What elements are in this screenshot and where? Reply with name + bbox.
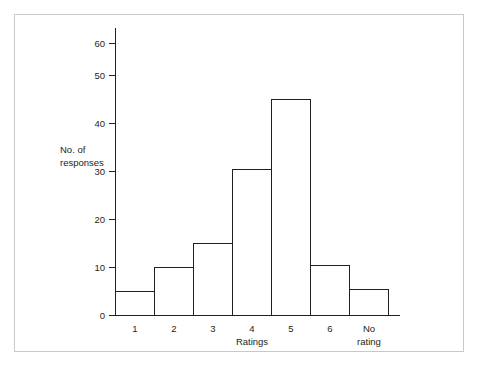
bar-rating-4 <box>233 170 272 316</box>
x-tick-marks <box>116 309 389 316</box>
bar-rating-6 <box>311 266 350 316</box>
x-tick-label-1: 1 <box>132 323 137 334</box>
bar-rating-2 <box>155 268 194 316</box>
y-tick-label-50: 50 <box>94 70 105 81</box>
chart-svg: 0 10 20 30 40 50 60 No. of responses <box>0 0 480 368</box>
x-tick-label-5: 5 <box>288 323 293 334</box>
bar-rating-1 <box>116 292 155 316</box>
bar-group <box>116 100 389 316</box>
x-tick-label-no-rating-line1: No <box>363 323 375 334</box>
y-tick-label-0: 0 <box>100 310 105 321</box>
y-tick-label-60: 60 <box>94 38 105 49</box>
y-axis-title-line2: responses <box>60 157 104 168</box>
x-tick-label-3: 3 <box>210 323 215 334</box>
bar-rating-5 <box>272 100 311 316</box>
x-axis-title: Ratings <box>236 336 268 347</box>
y-tick-label-20: 20 <box>94 214 105 225</box>
y-tick-labels: 0 10 20 30 40 50 60 <box>94 38 105 321</box>
y-axis-title: No. of responses <box>60 144 104 168</box>
x-tick-label-no-rating-line2: rating <box>357 336 381 347</box>
y-tick-marks <box>109 44 116 316</box>
y-tick-label-40: 40 <box>94 118 105 129</box>
bar-rating-no-rating <box>350 290 389 316</box>
y-tick-label-10: 10 <box>94 262 105 273</box>
x-tick-label-4: 4 <box>249 323 254 334</box>
x-tick-label-2: 2 <box>171 323 176 334</box>
histogram-chart: 0 10 20 30 40 50 60 No. of responses <box>0 0 480 368</box>
y-axis-title-line1: No. of <box>60 144 86 155</box>
bar-rating-3 <box>194 244 233 316</box>
x-tick-label-6: 6 <box>327 323 332 334</box>
